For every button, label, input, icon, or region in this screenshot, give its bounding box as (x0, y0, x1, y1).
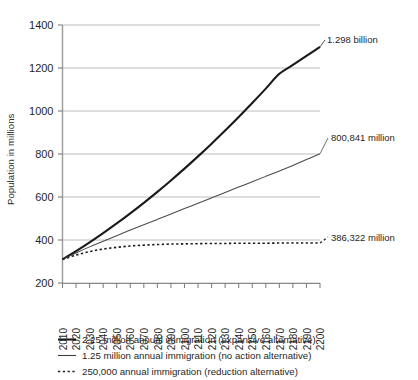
y-tick-label-1200: 1200 (29, 62, 53, 74)
x-tick-label-2200: 2200 (315, 328, 326, 351)
annotation-reduction-value: 386,322 million (331, 232, 395, 243)
legend-item-label-reduction: 250,000 annual immigration (reduction al… (82, 366, 298, 377)
series-line-0 (63, 47, 321, 259)
leader-line-2 (320, 237, 328, 243)
y-tick-label-200: 200 (35, 277, 53, 289)
leader-line-0 (320, 40, 325, 47)
chart-canvas: 200400600800100012001400 201020202030204… (0, 0, 418, 380)
legend-item-label-expansive: 2.25 million annual immigration (expansi… (82, 334, 316, 345)
series-line-2 (63, 243, 321, 259)
legend-item-label-no-action: 1.25 million annual immigration (no acti… (82, 350, 311, 361)
y-tick-label-800: 800 (35, 148, 53, 160)
annotation-expansive-value: 1.298 billion (327, 34, 378, 45)
y-axis-ticks-group: 200400600800100012001400 (29, 19, 62, 289)
y-axis-title: Population in millions (5, 113, 16, 205)
population-projection-chart: 200400600800100012001400 201020202030204… (0, 0, 418, 380)
annotation-leader-lines (320, 40, 328, 243)
y-tick-label-1400: 1400 (29, 19, 53, 31)
y-tick-label-1000: 1000 (29, 105, 53, 117)
y-tick-label-400: 400 (35, 234, 53, 246)
y-tick-label-600: 600 (35, 191, 53, 203)
annotation-no-action-value: 800,841 million (331, 132, 395, 143)
legend: 2.25 million annual immigration (expansi… (58, 334, 316, 377)
data-series-group (63, 47, 321, 259)
leader-line-1 (320, 138, 328, 154)
